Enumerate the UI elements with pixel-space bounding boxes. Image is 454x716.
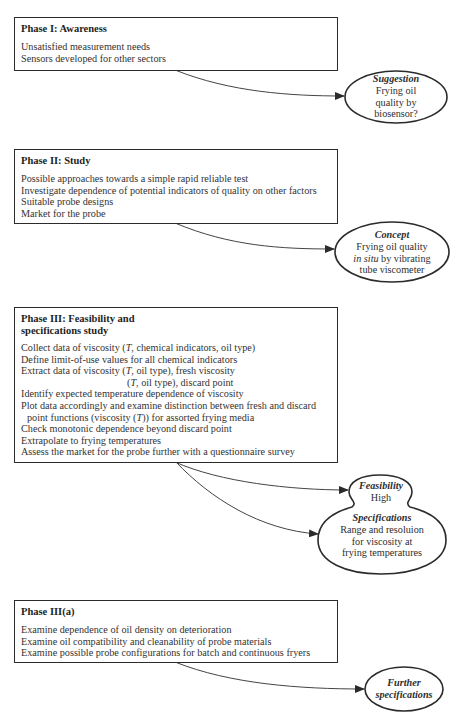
phase3-item: Extrapolate to frying temperatures [21,435,331,447]
arrow-phase3-to-specifications [176,462,318,534]
feasibility-heading: Feasibility [340,480,422,492]
phase3-box: Phase III: Feasibility and specification… [14,307,338,463]
phase3a-item: Examine oil compatibility and cleanabili… [21,636,331,648]
specifications-heading: Specifications [320,512,444,524]
phase2-title: Phase II: Study [21,155,331,167]
further-heading-line2: specifications [366,689,442,701]
phase3-item: Identify expected temperature dependence… [21,388,331,400]
phase3-item: Extract data of viscosity (T, oil type),… [21,365,331,377]
phase3-item: Collect data of viscosity (T, chemical i… [21,342,331,354]
phase3-item: Check monotonic dependence beyond discar… [21,423,331,435]
phase3-item-continuation: (T, oil type), discard point [21,377,331,389]
feasibility-outcome: Feasibility High [340,480,422,504]
arrow-phase1-to-suggestion [175,70,344,96]
phase1-item: Unsatisfied measurement needs [21,41,331,53]
suggestion-line: Frying oil [350,85,442,97]
suggestion-heading: Suggestion [350,73,442,85]
phase1-item: Sensors developed for other sectors [21,53,331,65]
further-outcome: Further specifications [366,677,442,701]
phase1-title: Phase I: Awareness [21,23,331,35]
suggestion-line: biosensor? [350,108,442,120]
phase2-item: Market for the probe [21,208,331,220]
specifications-line: frying temperatures [320,547,444,559]
phase3-title: Phase III: Feasibility and specification… [21,313,331,337]
concept-heading: Concept [337,229,447,241]
arrow-phase3a-to-further [175,662,364,689]
specifications-line: for viscosity at [320,536,444,548]
phase3-item: Define limit-of-use values for all chemi… [21,354,331,366]
concept-line: in situ by vibrating [337,253,447,265]
phase3-title-line2: specifications study [21,325,331,337]
phase2-item: Possible approaches towards a simple rap… [21,173,331,185]
phase1-box: Phase I: Awareness Unsatisfied measureme… [14,17,338,71]
phase3-item-continuation: point functions (viscosity (T)) for asso… [21,412,331,424]
phase3-item: Plot data accordingly and examine distin… [21,400,331,412]
feasibility-value: High [340,492,422,504]
phase3-title-line1: Phase III: Feasibility and [21,313,331,325]
phase3-item: Assess the market for the probe further … [21,446,331,458]
phase3a-title: Phase III(a) [21,606,331,618]
phase2-box: Phase II: Study Possible approaches towa… [14,149,338,224]
concept-outcome: Concept Frying oil quality in situ by vi… [337,229,447,276]
arrow-phase2-to-concept [175,223,334,249]
phase2-item: Investigate dependence of potential indi… [21,185,331,197]
concept-line: Frying oil quality [337,241,447,253]
phase3a-item: Examine dependence of oil density on det… [21,624,331,636]
phase3a-item: Examine possible probe configurations fo… [21,647,331,659]
concept-line: tube viscometer [337,264,447,276]
specifications-outcome: Specifications Range and resoluion for v… [320,512,444,559]
further-heading-line1: Further [366,677,442,689]
phase3a-box: Phase III(a) Examine dependence of oil d… [14,600,338,663]
suggestion-outcome: Suggestion Frying oil quality by biosens… [350,73,442,120]
phase2-item: Suitable probe designs [21,196,331,208]
specifications-line: Range and resoluion [320,524,444,536]
suggestion-line: quality by [350,97,442,109]
